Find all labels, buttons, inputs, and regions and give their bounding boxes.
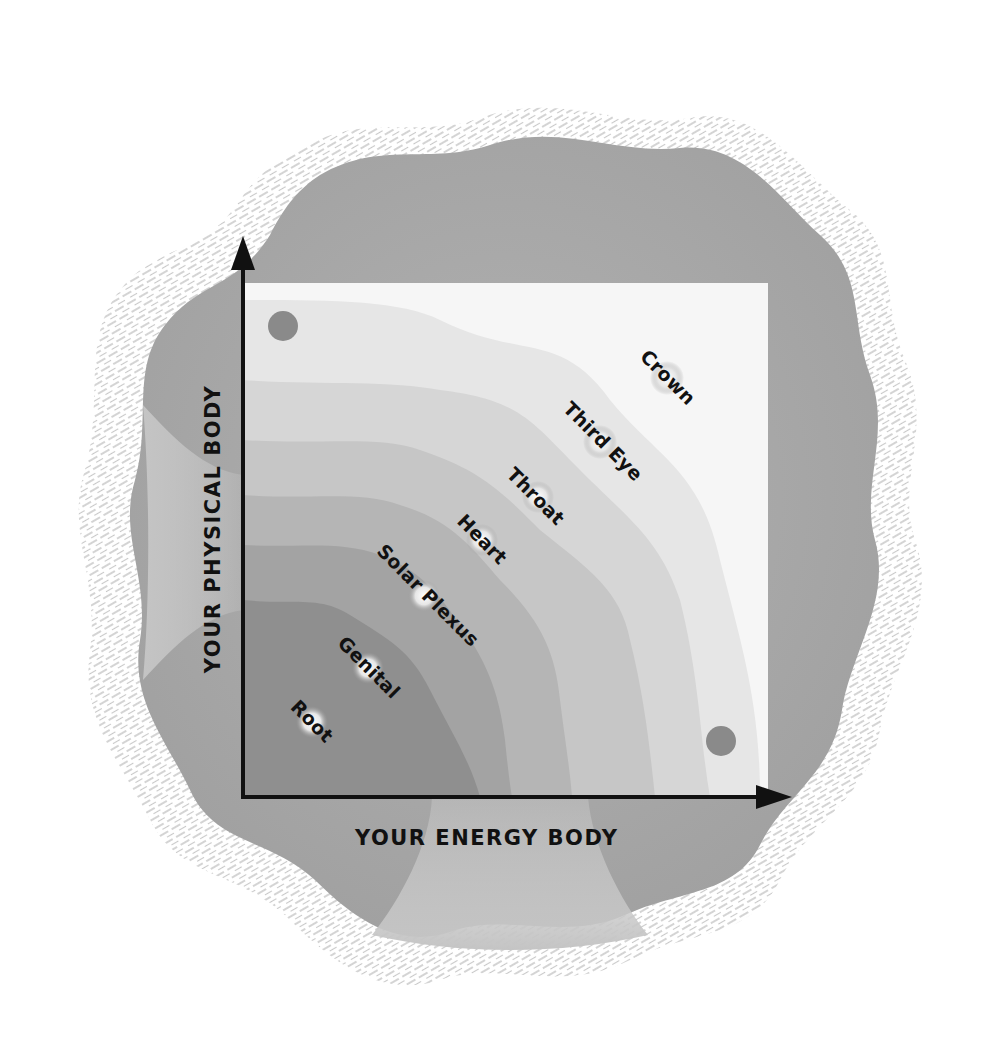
chakra-energy-diagram: Root Genital Solar Plexus Heart Throat T… bbox=[0, 0, 992, 1047]
corner-dot-bottom-right bbox=[706, 726, 736, 756]
y-axis-label: YOUR PHYSICAL BODY bbox=[201, 364, 225, 694]
diagram-graphic bbox=[0, 0, 992, 1047]
x-axis-label: YOUR ENERGY BODY bbox=[355, 826, 619, 850]
corner-dot-top-left bbox=[268, 311, 298, 341]
